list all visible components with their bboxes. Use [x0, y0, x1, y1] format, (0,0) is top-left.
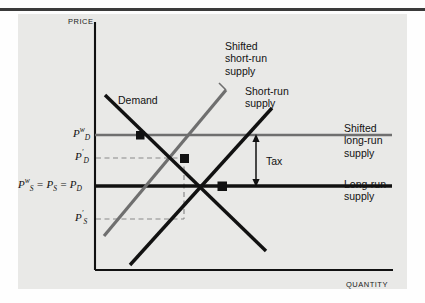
x-axis-label: QUANTITY — [346, 281, 388, 290]
eq-sub1: S — [30, 184, 34, 193]
price-label-pd-prime: P′D — [75, 149, 89, 166]
curve-label-shifted-short-run-line2: short-run — [225, 52, 267, 64]
curve-label-shifted-short-run-supply: Shifted short-run supply — [225, 40, 267, 77]
curve-label-short-run-supply: Short-run supply — [245, 85, 289, 110]
marker-equilibrium — [218, 182, 228, 192]
eq-sub3: D — [77, 184, 82, 193]
y-axis-label: PRICE — [68, 18, 93, 27]
price-label-pd-world-sub: D — [85, 133, 90, 142]
curve-label-short-run-line2: supply — [245, 97, 289, 109]
marker-pd-world — [136, 131, 145, 140]
eq-sub2: S — [53, 184, 57, 193]
eq-eq2: = — [60, 178, 67, 190]
price-label-pd-prime-base: P — [75, 150, 82, 162]
figure-container: PRICE QUANTITY PwD P′D PwS = PS = PD P′S… — [0, 0, 425, 303]
curve-label-long-run-line2: supply — [344, 190, 386, 202]
curve-label-shifted-short-run-line1: Shifted — [225, 40, 267, 52]
leader-shifted-short-run — [219, 83, 226, 90]
eq-eq1: = — [36, 178, 43, 190]
price-label-pd-world-base: P — [73, 127, 80, 139]
annotation-label-tax: Tax — [266, 155, 282, 167]
curve-label-shifted-long-run-line3: supply — [344, 147, 383, 159]
price-label-ps-prime: P′S — [75, 210, 87, 227]
curve-label-shifted-long-run-line2: long-run — [344, 134, 383, 146]
price-label-ps-prime-sub: S — [83, 217, 87, 226]
curve-demand — [105, 95, 266, 251]
dashed-guides-group — [96, 158, 184, 219]
curve-label-short-run-line1: Short-run — [245, 85, 289, 97]
price-label-ps-prime-base: P — [75, 211, 82, 223]
eq-p3: P — [70, 178, 77, 190]
price-label-equilibrium: PwS = PS = PD — [18, 177, 82, 194]
price-label-pd-prime-sub: D — [83, 156, 88, 165]
curve-label-shifted-long-run-supply: Shifted long-run supply — [344, 122, 383, 159]
marker-pd-prime — [180, 154, 189, 163]
eq-p1: P — [18, 178, 25, 190]
price-label-pd-world: PwD — [73, 126, 90, 143]
curve-label-long-run-supply: Long-run supply — [344, 178, 386, 203]
curve-label-long-run-line1: Long-run — [344, 178, 386, 190]
curve-label-demand: Demand — [118, 94, 158, 106]
tax-arrow — [252, 134, 259, 187]
curve-label-shifted-long-run-line1: Shifted — [344, 122, 383, 134]
curve-label-shifted-short-run-line3: supply — [225, 65, 267, 77]
